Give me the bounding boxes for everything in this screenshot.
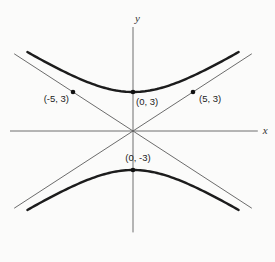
- point-label-0: (-5, 3): [44, 93, 69, 104]
- point-dot-3: [131, 168, 136, 173]
- point-label-3: (0, -3): [125, 152, 150, 163]
- point-dot-0: [71, 90, 76, 95]
- point-dot-2: [191, 90, 196, 95]
- x-axis-label: x: [262, 124, 268, 136]
- point-label-1: (0, 3): [136, 96, 158, 107]
- graph-panel: xy(-5, 3)(0, 3)(5, 3)(0, -3): [0, 0, 275, 262]
- point-dot-1: [131, 90, 136, 95]
- hyperbola-graph: xy(-5, 3)(0, 3)(5, 3)(0, -3): [0, 0, 275, 262]
- y-axis-label: y: [134, 12, 140, 24]
- point-label-2: (5, 3): [199, 93, 221, 104]
